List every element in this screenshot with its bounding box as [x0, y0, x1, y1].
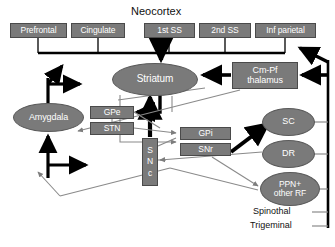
sensory-label-trigeminal: Trigeminal	[250, 220, 292, 230]
nucleus-label: GPi	[199, 129, 213, 138]
sensory-label-spinothalamic: Spinothal	[253, 206, 291, 216]
nucleus-label-line2: other RF	[274, 189, 306, 198]
nucleus-gpe[interactable]: GPe	[90, 106, 134, 119]
cortex-area-prefrontal[interactable]: Prefrontal	[10, 23, 67, 38]
amygdala-upper-outputs	[48, 66, 80, 103]
nucleus-dr[interactable]: DR	[262, 140, 315, 168]
cortex-area-label: 1st SS	[157, 26, 181, 35]
nucleus-snc[interactable]: S N c	[142, 138, 158, 186]
nucleus-label: Striatum	[137, 74, 173, 85]
cortex-area-inf-parietal[interactable]: Inf parietal	[255, 23, 316, 38]
cortex-area-label: 2nd SS	[211, 26, 238, 35]
nucleus-sc[interactable]: SC	[262, 108, 315, 136]
nucleus-amygdala[interactable]: Amygdala	[13, 103, 84, 132]
page-title: Neocortex	[131, 5, 181, 18]
brainstem-trunk-taps	[312, 122, 328, 226]
nucleus-ppn-other-rf[interactable]: PPN+ other RF	[260, 172, 320, 206]
cortex-area-label: Inf parietal	[266, 26, 305, 35]
cortex-area-first-ss[interactable]: 1st SS	[144, 23, 195, 38]
nucleus-label: SNr	[198, 145, 212, 154]
nucleus-gpi[interactable]: GPi	[180, 127, 231, 140]
cortex-area-label: Prefrontal	[21, 26, 57, 35]
nucleus-label: GPe	[104, 108, 121, 117]
nucleus-cm-pf-thalamus[interactable]: Cm-Pf thalamus	[232, 62, 298, 89]
snr-to-sc-arrow	[231, 124, 268, 152]
nucleus-striatum[interactable]: Striatum	[112, 63, 198, 96]
nucleus-stn[interactable]: STN	[90, 122, 134, 135]
nucleus-label: DR	[282, 149, 295, 158]
nucleus-snr[interactable]: SNr	[180, 143, 231, 156]
cortex-droplines	[38, 38, 285, 53]
nucleus-label-letter-c: c	[148, 168, 152, 179]
nucleus-label: STN	[104, 124, 121, 133]
diagram-canvas: Neocortex Prefrontal Cingulate 1st SS 2n…	[0, 0, 335, 247]
nucleus-label-letter-s: S	[147, 145, 153, 156]
nucleus-label-letter-n: N	[147, 156, 153, 167]
amygdala-lower-inputs	[48, 136, 86, 178]
cortex-area-label: Cingulate	[80, 26, 115, 35]
trunk-to-cortex-arrow	[300, 48, 328, 62]
nucleus-label: SC	[282, 117, 294, 126]
cortex-area-second-ss[interactable]: 2nd SS	[199, 23, 251, 38]
nucleus-label-line2: thalamus	[247, 76, 283, 85]
cortex-area-cingulate[interactable]: Cingulate	[71, 23, 125, 38]
nucleus-label: Amygdala	[29, 113, 68, 122]
